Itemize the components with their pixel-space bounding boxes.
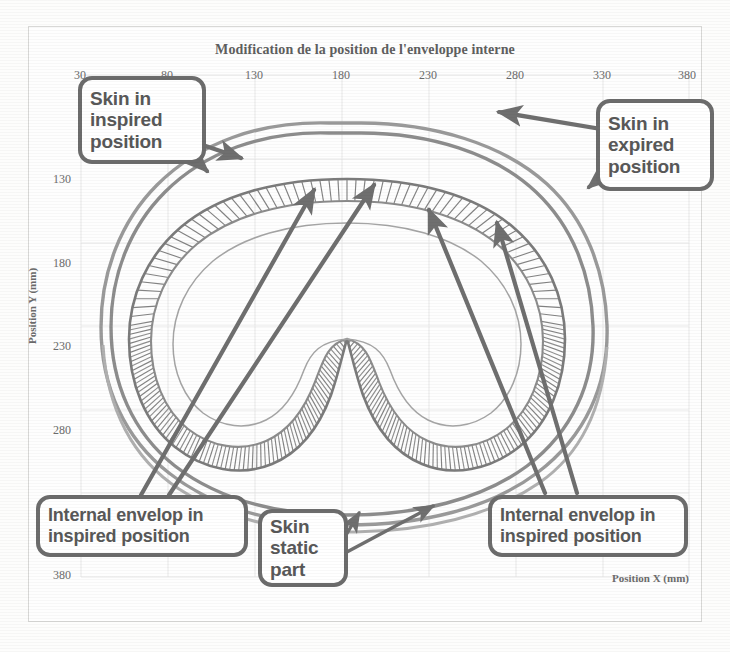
scanned-figure-page: Modification de la position de l'envelop… (0, 0, 730, 652)
x-tick-230: 230 (419, 68, 437, 83)
skin-inspired-contour (111, 133, 593, 515)
callout-internal-left-text: Internal envelop in inspired position (48, 505, 236, 546)
y-axis-label: Position Y (mm) (26, 268, 38, 344)
x-tick-280: 280 (506, 68, 524, 83)
callout-internal-envelope-right: Internal envelop in inspired position (488, 495, 688, 557)
x-tick-330: 330 (593, 68, 611, 83)
x-tick-130: 130 (245, 68, 263, 83)
callout-skin-static-part: Skin static part (258, 509, 348, 587)
y-tick-130: 130 (53, 172, 71, 187)
y-tick-230: 230 (53, 339, 71, 354)
chart-title: Modification de la position de l'envelop… (0, 42, 730, 58)
callout-skin-static-text: Skin static part (270, 516, 336, 581)
callout-skin-expired-position: Skin in expired position (596, 99, 714, 191)
y-tick-280: 280 (53, 423, 71, 438)
annotation-arrows (141, 112, 619, 553)
x-tick-180: 180 (332, 68, 350, 83)
y-tick-380: 380 (53, 568, 71, 583)
skin-contours (101, 123, 607, 532)
callout-skin-inspired-text: Skin in inspired position (90, 88, 194, 153)
internal-envelope-mid-contour-right (347, 223, 521, 426)
callout-skin-expired-text: Skin in expired position (608, 113, 702, 178)
x-tick-380: 380 (678, 68, 696, 83)
y-tick-180: 180 (53, 256, 71, 271)
callout-internal-envelope-left: Internal envelop in inspired position (36, 495, 248, 557)
callout-internal-right-text: Internal envelop in inspired position (500, 505, 676, 546)
x-axis-label: Position X (mm) (612, 572, 689, 584)
callout-skin-inspired-position: Skin in inspired position (78, 76, 206, 164)
